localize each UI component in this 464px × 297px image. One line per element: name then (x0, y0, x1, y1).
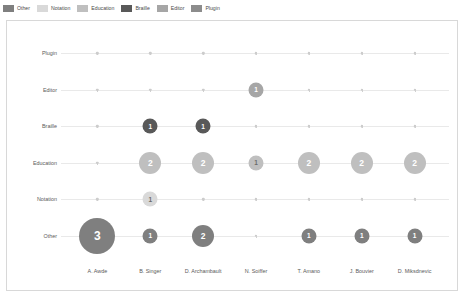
y-axis-label-education: Education (7, 160, 57, 166)
bubble-value-label: 1 (201, 123, 205, 130)
bubble-value-label: 1 (148, 233, 152, 240)
legend-item-braille[interactable]: Braille (121, 5, 149, 12)
bubble-point[interactable]: 1 (249, 82, 264, 97)
bubble-point[interactable]: 2 (298, 152, 320, 174)
chart-plot-frame: PluginEditorBrailleEducationNotationOthe… (6, 20, 458, 291)
legend-item-other[interactable]: Other (3, 5, 30, 12)
bubble-point[interactable]: 1 (301, 228, 316, 243)
legend-item-label: Notation (51, 5, 70, 12)
chart-plot-area: PluginEditorBrailleEducationNotationOthe… (7, 21, 459, 292)
x-axis-label: D. Archambault (185, 268, 222, 274)
bubble-value-label: 2 (359, 159, 364, 168)
x-axis-label: B. Singer (139, 268, 161, 274)
bubble-value-label: 2 (148, 159, 153, 168)
legend-item-label: Other (17, 5, 30, 12)
legend-item-label: Education (91, 5, 114, 12)
bubble-value-label: 3 (94, 230, 101, 242)
bubble-value-label: 1 (254, 87, 258, 94)
bubble-point[interactable]: 1 (249, 155, 264, 170)
legend-item-label: Plugin (205, 5, 219, 12)
bubble-point[interactable]: 1 (196, 119, 211, 134)
bubble-value-label: 2 (306, 159, 311, 168)
y-axis-label-editor: Editor (7, 87, 57, 93)
legend-item-education[interactable]: Education (77, 5, 114, 12)
legend-item-label: Braille (135, 5, 149, 12)
bubble-point[interactable]: 1 (407, 228, 422, 243)
bubble-point[interactable]: 2 (192, 225, 214, 247)
legend-item-plugin[interactable]: Plugin (191, 5, 219, 12)
y-axis-label-plugin: Plugin (7, 50, 57, 56)
x-axis-label: T. Amano (298, 268, 320, 274)
legend-item-notation[interactable]: Notation (37, 5, 70, 12)
bubble-value-label: 1 (360, 233, 364, 240)
bubble-value-label: 1 (254, 160, 258, 167)
legend-item-editor[interactable]: Editor (157, 5, 185, 12)
bubble-value-label: 1 (413, 233, 417, 240)
bubble-point[interactable]: 2 (404, 152, 426, 174)
y-axis-label-other: Other (7, 233, 57, 239)
x-axis-label: D. Miksdnevic (398, 268, 432, 274)
chart-legend: OtherNotationEducationBrailleEditorPlugi… (3, 3, 220, 14)
bubble-point[interactable]: 1 (143, 192, 158, 207)
legend-item-label: Editor (171, 5, 185, 12)
bubble-point[interactable]: 1 (143, 228, 158, 243)
legend-swatch-icon (3, 5, 14, 12)
legend-swatch-icon (37, 5, 48, 12)
bubble-point[interactable]: 2 (192, 152, 214, 174)
bubble-point[interactable]: 1 (143, 119, 158, 134)
bubble-value-label: 2 (201, 232, 206, 241)
y-axis-label-braille: Braille (7, 123, 57, 129)
legend-swatch-icon (191, 5, 202, 12)
x-axis-label: J. Bouvier (350, 268, 374, 274)
bubble-point[interactable]: 2 (139, 152, 161, 174)
x-axis-label: A. Awde (88, 268, 108, 274)
bubble-value-label: 2 (412, 159, 417, 168)
bubble-value-label: 2 (201, 159, 206, 168)
legend-swatch-icon (121, 5, 132, 12)
bubble-point[interactable]: 1 (354, 228, 369, 243)
x-axis-label: N. Soiffer (245, 268, 267, 274)
bubble-value-label: 1 (148, 123, 152, 130)
bubble-point[interactable]: 3 (79, 218, 115, 254)
bubble-point[interactable]: 2 (351, 152, 373, 174)
bubble-value-label: 1 (148, 196, 152, 203)
y-axis-label-notation: Notation (7, 196, 57, 202)
legend-swatch-icon (77, 5, 88, 12)
bubble-value-label: 1 (307, 233, 311, 240)
legend-swatch-icon (157, 5, 168, 12)
